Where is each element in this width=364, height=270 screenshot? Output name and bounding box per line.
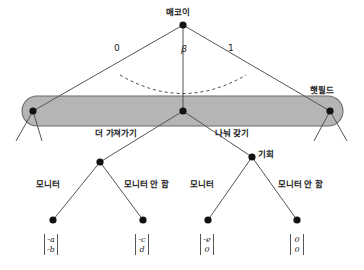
branch-label-monitor-2: 모니터: [190, 180, 213, 189]
node-infoset-right: [326, 107, 333, 114]
branch-label-monitor-1: 모니터: [36, 180, 59, 189]
node-decision-left: [96, 158, 103, 165]
payoff-vector-1: -a -b: [42, 234, 60, 255]
node-infoset-middle: [179, 107, 186, 114]
branch-label-share: 나눠 갖기: [215, 129, 249, 138]
payoff-bottom-value: 0: [203, 245, 211, 255]
game-tree-figure: 매코이 0 β 1 햇필드 더 가져가기 나눠 갖기 기회 모니터 모니터 안 …: [0, 0, 364, 270]
edge-monitor-2: [208, 157, 252, 220]
branch-label-take-more: 더 가져가기: [95, 129, 137, 138]
payoff-top-value: -c: [138, 235, 146, 245]
payoff-vector-4: 0 0: [288, 234, 306, 255]
payoff-top-value: -e: [203, 235, 211, 245]
root-player-label: 매코이: [166, 8, 189, 17]
branch-label-one: 1: [228, 44, 234, 53]
payoff-bottom-value: -b: [47, 245, 55, 255]
payoff-bottom-value: d: [138, 245, 146, 255]
payoff-top-value: 0: [293, 235, 301, 245]
branch-label-zero: 0: [114, 44, 120, 53]
node-terminal-2: [139, 216, 146, 223]
payoff-values: -c d: [138, 234, 146, 255]
payoff-bar-right: [303, 234, 304, 255]
payoff-vector-2: -c d: [133, 234, 151, 255]
payoff-bar-right: [213, 234, 214, 255]
node-chance: [248, 153, 255, 160]
branch-label-no-monitor-2: 모니터 안 함: [278, 180, 323, 189]
node-root: [179, 21, 186, 28]
payoff-vector-3: -e 0: [198, 234, 216, 255]
node-terminal-1: [49, 216, 56, 223]
payoff-bar-left: [290, 234, 291, 255]
payoff-bar-left: [135, 234, 136, 255]
payoff-values: 0 0: [293, 234, 301, 255]
branch-label-beta: β: [181, 44, 187, 54]
payoff-top-value: -a: [47, 235, 55, 245]
branch-label-no-monitor-1: 모니터 안 함: [124, 180, 169, 189]
payoff-values: -e 0: [203, 234, 211, 255]
payoff-bottom-value: 0: [293, 245, 301, 255]
payoff-bar-right: [57, 234, 58, 255]
edge-monitor-1: [53, 162, 100, 220]
payoff-values: -a -b: [47, 234, 55, 255]
payoff-bar-left: [44, 234, 45, 255]
payoff-bar-right: [148, 234, 149, 255]
node-terminal-4: [293, 216, 300, 223]
payoff-bar-left: [200, 234, 201, 255]
chance-node-label: 기회: [258, 150, 274, 159]
node-infoset-left: [29, 107, 36, 114]
tree-graphics: [0, 0, 364, 270]
node-terminal-3: [204, 216, 211, 223]
edge-no-monitor-1: [100, 162, 143, 220]
infoset-right-player-label: 햇필드: [310, 86, 333, 95]
